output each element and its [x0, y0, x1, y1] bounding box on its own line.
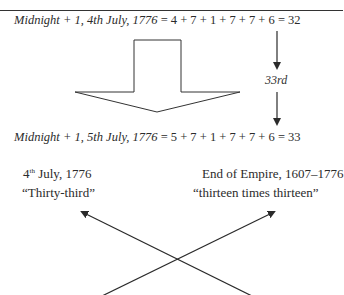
cross-arrow-to-right-icon [102, 212, 274, 295]
block-down-arrow-icon [75, 40, 240, 112]
cross-arrow-to-left-icon [82, 212, 252, 295]
